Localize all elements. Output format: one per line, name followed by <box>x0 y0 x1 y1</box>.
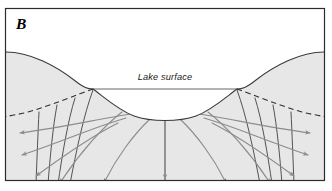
flow-net-diagram: B Lake surface <box>0 0 332 191</box>
panel-letter: B <box>15 15 26 32</box>
figure-panel-b: B Lake surface <box>0 0 332 191</box>
lake-surface-label: Lake surface <box>138 72 192 82</box>
